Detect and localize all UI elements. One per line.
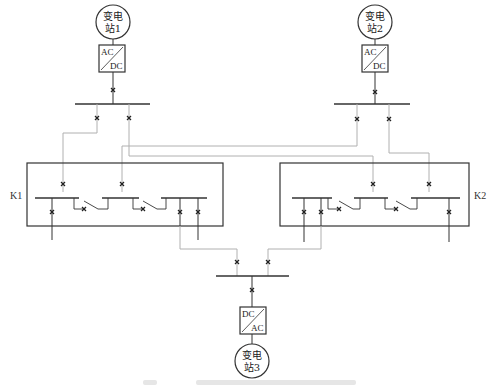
station-2-label-line1: 变电 [365,10,385,22]
converter-2: AC DC [362,45,388,72]
upper-feeders [63,104,429,192]
converter-2-top-label: AC [364,47,377,57]
converter-1: AC DC [99,45,125,72]
station-3-node: 变电 站3 [235,344,269,378]
station-3-label-line1: 变电 [242,349,262,361]
figure-caption-illegible [196,380,356,385]
station-2-label-line2: 站2 [367,22,383,34]
converter-1-top-label: AC [101,47,114,57]
K2-label: K2 [474,190,486,201]
K1-label: K1 [10,190,22,201]
switchgear-K1: K1 [10,163,223,240]
converter-2-bottom-label: DC [373,61,386,71]
station-1-label-line1: 变电 [103,10,123,22]
station-2-node: 变电 站2 [358,5,392,39]
station-3-label-line2: 站3 [244,361,260,373]
figure-caption-illegible [143,380,157,385]
converter-3-bottom-label: AC [251,323,264,333]
converter-3: DC AC [240,307,266,334]
converter-3-top-label: DC [242,309,255,319]
power-distribution-diagram: 变电 站1 AC DC 变电 站2 AC DC [0,0,490,388]
lower-feeders [180,226,321,276]
converter-1-bottom-label: DC [110,61,123,71]
station-1-node: 变电 站1 [96,5,130,39]
switchgear-K2: K2 [280,163,486,242]
station-1-label-line2: 站1 [105,22,121,34]
